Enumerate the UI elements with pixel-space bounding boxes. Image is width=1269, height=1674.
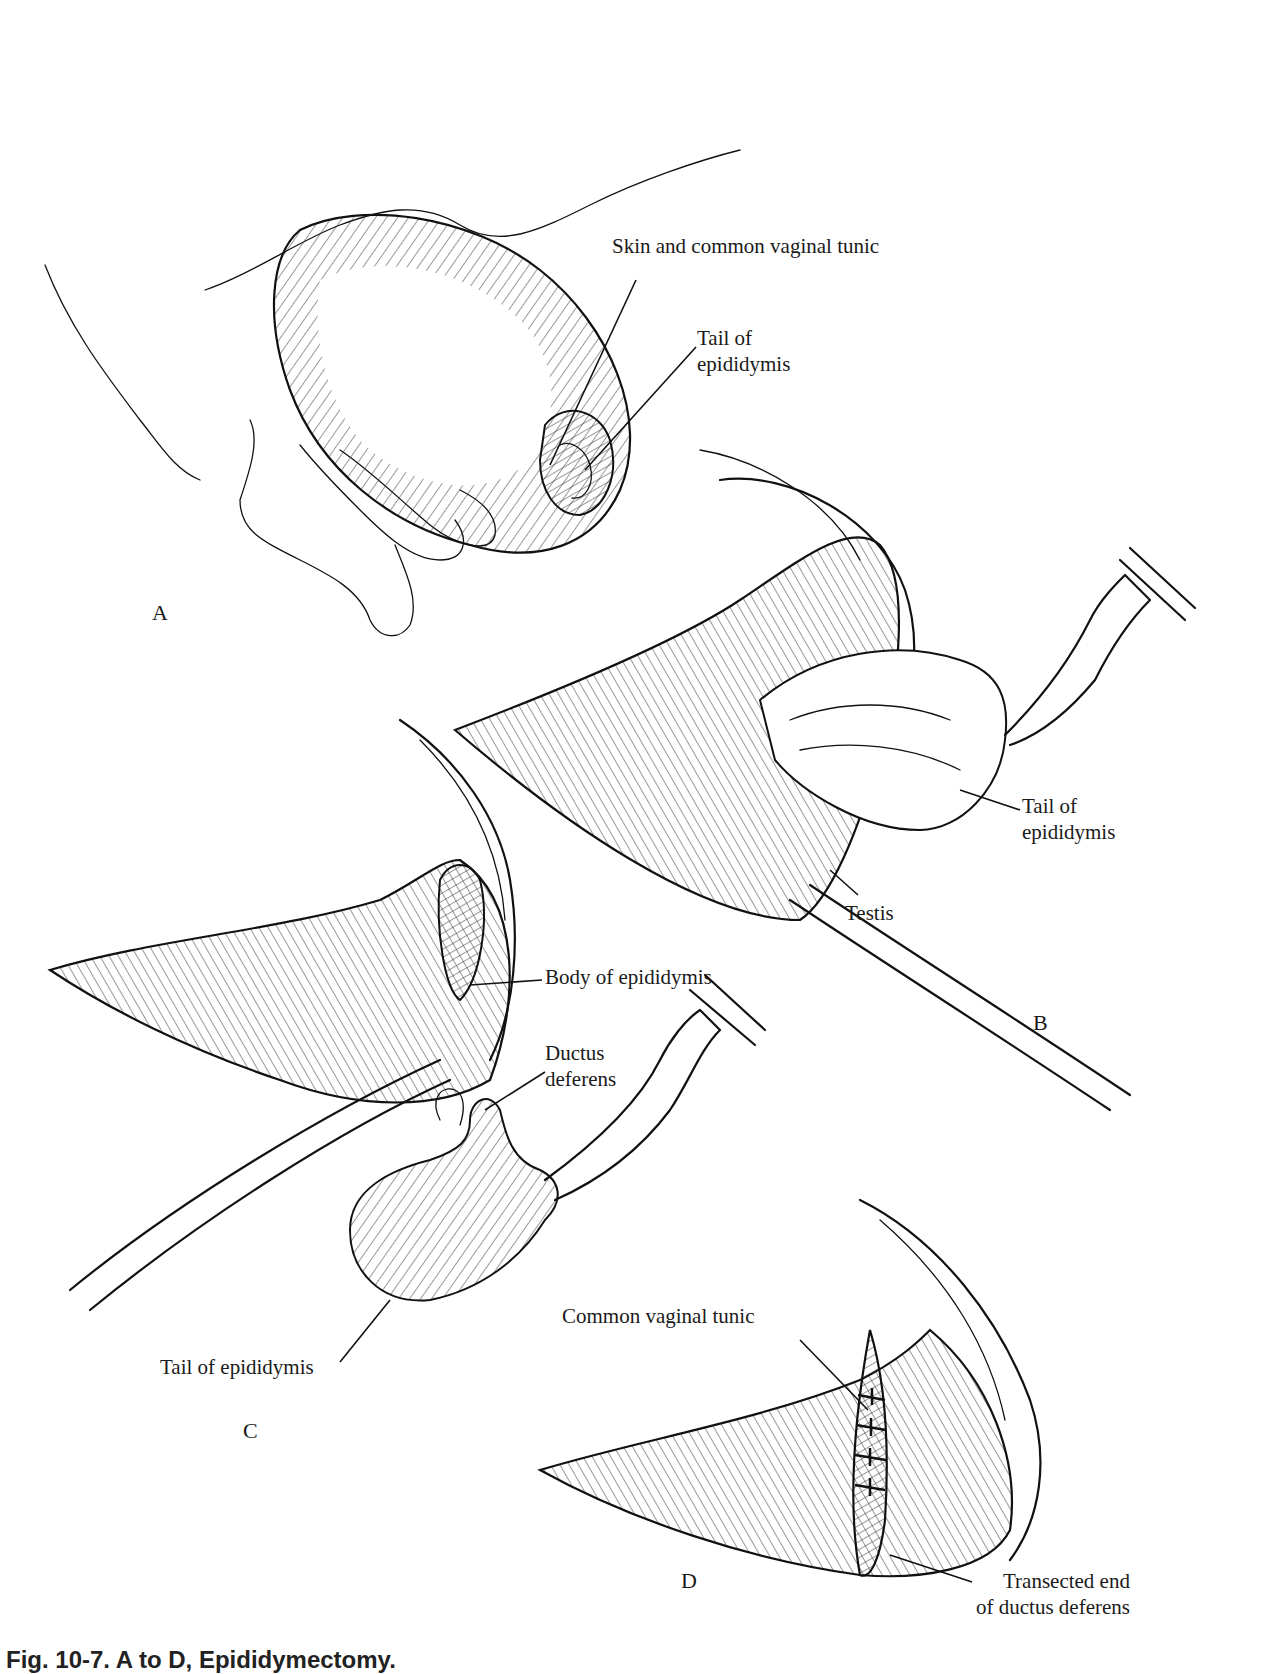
panel-b-drawing	[455, 450, 1195, 1110]
label-testis: Testis	[845, 900, 894, 926]
label-line: Ductus	[545, 1040, 616, 1066]
leader-b-testis	[830, 870, 858, 895]
panel-letter-b: B	[1033, 1010, 1048, 1036]
figure-caption: Fig. 10-7. A to D, Epididymectomy.	[6, 1646, 396, 1674]
panel-letter-d: D	[681, 1568, 697, 1594]
label-line: Tail of	[1022, 793, 1115, 819]
label-tail-epididymis-c: Tail of epididymis	[160, 1354, 314, 1380]
label-body-epididymis: Body of epididymis	[545, 964, 712, 990]
leader-c-tail	[340, 1300, 390, 1362]
label-line: of ductus deferens	[976, 1594, 1130, 1620]
forceps-c	[545, 1010, 720, 1200]
label-transected-end-ductus-deferens: Transected end of ductus deferens	[976, 1568, 1130, 1620]
label-line: deferens	[545, 1066, 616, 1092]
label-line: epididymis	[697, 351, 790, 377]
panel-letter-c: C	[243, 1418, 258, 1444]
label-skin-common-vaginal-tunic: Skin and common vaginal tunic	[612, 233, 879, 259]
instrument-b	[790, 900, 1110, 1110]
panel-d-drawing	[540, 1200, 1040, 1582]
panel-letter-a: A	[152, 600, 168, 626]
leader-c-ductus	[485, 1072, 545, 1110]
panel-a-drawing	[45, 150, 740, 636]
label-common-vaginal-tunic: Common vaginal tunic	[562, 1303, 754, 1329]
label-tail-epididymis-a: Tail of epididymis	[697, 325, 790, 377]
label-ductus-deferens: Ductus deferens	[545, 1040, 616, 1092]
label-tail-epididymis-b: Tail of epididymis	[1022, 793, 1115, 845]
epididymis-detached-c	[350, 1099, 558, 1300]
label-line: Transected end	[976, 1568, 1130, 1594]
forceps-b	[1005, 575, 1150, 745]
label-line: Tail of	[697, 325, 790, 351]
label-line: epididymis	[1022, 819, 1115, 845]
scrotum-d	[540, 1330, 1012, 1576]
